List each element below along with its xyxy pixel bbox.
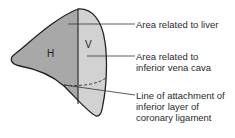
callout-ligament-line3: coronary ligament — [136, 112, 225, 123]
callout-liver: Area related to liver — [136, 19, 218, 30]
callout-liver-line1: Area related to liver — [136, 19, 218, 30]
hepatic-area — [0, 0, 78, 138]
callout-vena-cava-line2: inferior vena cava — [136, 62, 211, 73]
region-label-v: V — [85, 39, 92, 50]
callout-ligament-line1: Line of attachment of — [136, 90, 225, 101]
callout-vena-cava-line1: Area related to — [136, 51, 211, 62]
callout-vena-cava: Area related to inferior vena cava — [136, 51, 211, 73]
vena-cava-area — [78, 0, 138, 138]
callout-ligament-line2: inferior layer of — [136, 101, 225, 112]
callout-ligament: Line of attachment of inferior layer of … — [136, 90, 225, 123]
diagram-canvas: H V Area related to liver Area related t… — [0, 0, 235, 138]
region-label-h: H — [47, 48, 54, 59]
